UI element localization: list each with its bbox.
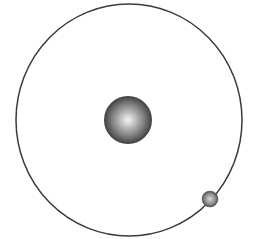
nucleus [104, 96, 152, 144]
atom-diagram [0, 0, 253, 239]
electron [202, 191, 218, 207]
